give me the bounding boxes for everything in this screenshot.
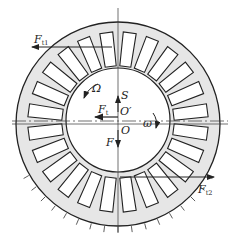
- hatch-mark: [145, 224, 147, 230]
- hatch-mark: [32, 187, 37, 191]
- hatch-mark: [24, 176, 29, 179]
- label-omega-big: Ω: [91, 82, 101, 95]
- label-ft1: Ft1: [33, 33, 48, 47]
- label-ft2: Ft2: [197, 183, 212, 197]
- hatch-mark: [104, 226, 105, 232]
- hatch-mark: [90, 224, 92, 230]
- hatch-mark: [157, 219, 159, 225]
- hatch-mark: [52, 206, 56, 211]
- hatch-mark: [41, 197, 45, 201]
- hatch-mark: [76, 219, 78, 225]
- hatch-mark: [181, 206, 185, 211]
- label-omega-small: ω: [143, 117, 152, 130]
- hatch-mark: [64, 213, 67, 218]
- hatch-mark: [191, 197, 195, 201]
- label-f: F: [105, 136, 114, 149]
- rotor-force-diagram: Ft1 Ft2 Ft Ω ω S O′ O F: [0, 0, 233, 236]
- label-o: O: [121, 124, 130, 137]
- hatch-mark: [170, 213, 173, 218]
- label-o-prime: O′: [120, 105, 132, 118]
- hatch-mark: [131, 226, 132, 232]
- label-s: S: [121, 89, 129, 102]
